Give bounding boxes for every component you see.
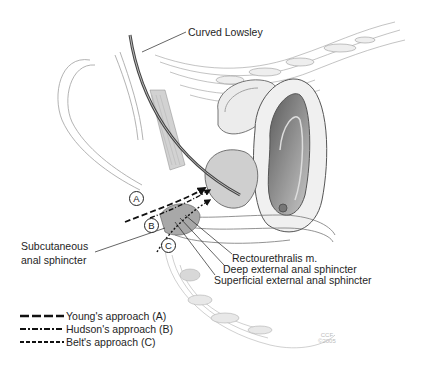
legend-hudson: Hudson's approach (B)	[20, 322, 173, 335]
external-genitalia	[58, 52, 143, 190]
label-subcutaneous-line2: anal sphincter	[21, 254, 86, 266]
label-superficial-external: Superficial external anal sphincter	[214, 274, 372, 286]
marker-c: C	[161, 238, 176, 253]
legend-belt: Belt's approach (C)	[20, 335, 156, 348]
marker-b: B	[144, 218, 159, 233]
rectum	[253, 79, 326, 232]
long-dash-line-icon	[20, 313, 64, 319]
legend-hudson-label: Hudson's approach (B)	[66, 323, 173, 335]
legend-young-label: Young's approach (A)	[66, 310, 166, 322]
dash-dot-line-icon	[20, 326, 64, 332]
label-subcutaneous-line1: Subcutaneous	[21, 240, 88, 252]
marker-a: A	[129, 191, 144, 206]
legend-belt-label: Belt's approach (C)	[66, 336, 156, 348]
label-curved-lowsley: Curved Lowsley	[188, 26, 263, 38]
watermark-line2: ©2005	[318, 338, 336, 344]
short-dash-line-icon	[20, 339, 64, 345]
sphincter-complex	[160, 204, 200, 235]
legend-young: Young's approach (A)	[20, 309, 166, 322]
watermark: CCF ©2005	[318, 332, 336, 344]
